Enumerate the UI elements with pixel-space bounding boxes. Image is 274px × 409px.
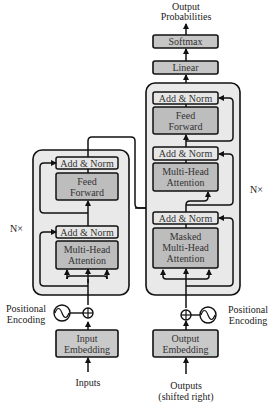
outputs-label-1: Outputs bbox=[170, 380, 202, 391]
decoder: Output Probabilities Softmax Linear Add … bbox=[146, 1, 268, 403]
encoder-feed-forward-label-1: Feed bbox=[77, 176, 96, 187]
decoder-positional-encoding-label-2: Encoding bbox=[229, 315, 267, 326]
decoder-add-norm-mid-label: Add & Norm bbox=[159, 148, 213, 159]
decoder-add-norm-top-label: Add & Norm bbox=[159, 93, 213, 104]
encoder-sine-wave-icon bbox=[54, 305, 70, 321]
encoder-add-norm-top-label: Add & Norm bbox=[60, 158, 114, 169]
encoder-positional-encoding-label-2: Encoding bbox=[7, 314, 45, 325]
masked-attention-label-2: Multi-Head bbox=[162, 242, 209, 253]
outputs-label-2: (shifted right) bbox=[158, 391, 213, 403]
output-probabilities-label-2: Probabilities bbox=[161, 11, 212, 22]
output-embedding-label-1: Output bbox=[172, 333, 200, 344]
transformer-diagram: Add & Norm Feed Forward Add & Norm Multi… bbox=[0, 0, 274, 409]
decoder-attention-label-2: Attention bbox=[167, 177, 205, 188]
decoder-add-norm-bottom-label: Add & Norm bbox=[159, 213, 213, 224]
masked-attention-label-1: Masked bbox=[170, 231, 202, 242]
encoder-add-icon bbox=[83, 308, 93, 318]
decoder-sine-wave-icon bbox=[200, 307, 216, 323]
decoder-feed-forward-label-1: Feed bbox=[176, 110, 195, 121]
decoder-positional-encoding-label-1: Positional bbox=[228, 304, 268, 315]
linear-label: Linear bbox=[172, 62, 199, 73]
input-embedding-label-1: Input bbox=[76, 333, 97, 344]
decoder-add-icon bbox=[181, 310, 191, 320]
encoder-stack bbox=[33, 150, 129, 295]
encoder-positional-encoding-label-1: Positional bbox=[6, 303, 46, 314]
decoder-repeat-label: N× bbox=[250, 184, 263, 195]
decoder-feed-forward-label-2: Forward bbox=[169, 121, 203, 132]
masked-attention-label-3: Attention bbox=[167, 253, 205, 264]
inputs-label: Inputs bbox=[76, 377, 101, 388]
softmax-label: Softmax bbox=[169, 36, 203, 47]
encoder-attention-label-1: Multi-Head bbox=[64, 244, 111, 255]
encoder-repeat-label: N× bbox=[10, 223, 23, 234]
encoder-add-norm-bottom-label: Add & Norm bbox=[60, 227, 114, 238]
output-embedding-label-2: Embedding bbox=[162, 344, 208, 355]
encoder-feed-forward-label-2: Forward bbox=[70, 187, 104, 198]
decoder-attention-label-1: Multi-Head bbox=[162, 166, 209, 177]
input-embedding-label-2: Embedding bbox=[64, 344, 110, 355]
encoder-attention-label-2: Attention bbox=[68, 255, 106, 266]
